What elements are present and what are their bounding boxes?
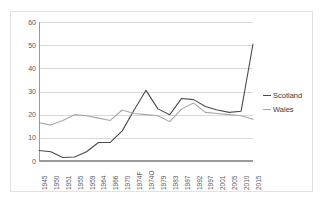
x-axis-tick-label: 1959 bbox=[90, 176, 97, 190]
series-line-scotland bbox=[39, 44, 253, 158]
legend-line-swatch bbox=[263, 109, 271, 110]
x-axis-tick-label: 1955 bbox=[78, 176, 85, 190]
y-axis-tick-label: 60 bbox=[14, 19, 36, 26]
legend-item-wales[interactable]: Wales bbox=[263, 102, 321, 116]
x-axis-tick-label: 1983 bbox=[173, 176, 180, 190]
x-axis-tick-label: 1974O bbox=[149, 170, 156, 190]
y-axis-tick-label: 30 bbox=[14, 88, 36, 95]
series-lines bbox=[39, 22, 253, 161]
x-axis-tick-label: 1951 bbox=[66, 176, 73, 190]
legend-item-label: Wales bbox=[273, 105, 294, 114]
series-line-wales bbox=[39, 103, 253, 125]
x-axis-tick-label: 1979 bbox=[161, 176, 168, 190]
x-axis-tick-label: 1987 bbox=[185, 176, 192, 190]
x-axis-tick-label: 1997 bbox=[208, 176, 215, 190]
x-axis-tick-label: 2010 bbox=[244, 176, 251, 190]
x-axis-tick-label: 2015 bbox=[256, 176, 263, 190]
x-axis-tick-labels: 194519501951195519591964196619701974F197… bbox=[39, 164, 253, 202]
legend-item-label: Scotland bbox=[273, 91, 302, 100]
y-axis-tick-label: 40 bbox=[14, 65, 36, 72]
y-axis-tick-label: 0 bbox=[14, 158, 36, 165]
x-axis-tick-label: 1974F bbox=[137, 172, 144, 190]
y-axis-tick-labels: 6050403020100 bbox=[11, 22, 36, 161]
chart-legend: ScotlandWales bbox=[263, 88, 321, 116]
legend-item-scotland[interactable]: Scotland bbox=[263, 88, 321, 102]
chart-figure: 6050403020100 19451950195119551959196419… bbox=[10, 11, 313, 192]
x-axis-tick-label: 2005 bbox=[232, 176, 239, 190]
gridline bbox=[39, 161, 253, 162]
x-axis-tick-label: 1945 bbox=[42, 176, 49, 190]
x-axis-tick-label: 1966 bbox=[113, 176, 120, 190]
legend-line-swatch bbox=[263, 95, 271, 96]
y-axis-tick-label: 10 bbox=[14, 134, 36, 141]
y-axis-tick-label: 20 bbox=[14, 111, 36, 118]
plot-area bbox=[39, 22, 253, 161]
x-axis-tick-label: 2001 bbox=[220, 176, 227, 190]
x-axis-tick-label: 1992 bbox=[197, 176, 204, 190]
x-axis-tick-label: 1970 bbox=[125, 176, 132, 190]
x-axis-tick-label: 1964 bbox=[101, 176, 108, 190]
y-axis-tick-label: 50 bbox=[14, 42, 36, 49]
x-axis-tick-label: 1950 bbox=[54, 176, 61, 190]
